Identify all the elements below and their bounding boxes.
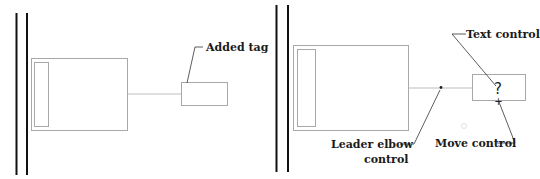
cursor-ghost-icon: [462, 124, 467, 129]
leader-elbow-label: Leader elbow: [331, 138, 413, 151]
leader-elbow-label-line2: control: [364, 153, 408, 166]
cabinet-outline: [32, 59, 128, 131]
move-control-label: Move control: [435, 137, 516, 150]
text-control-callout-line: [452, 34, 496, 86]
text-control-label: Text control: [466, 28, 540, 41]
cabinet-outline: [294, 46, 409, 131]
right-panel: ? + Text control Leader elbow control Mo…: [277, 5, 540, 172]
cabinet-inner-panel: [35, 63, 49, 127]
leader-elbow-callout-line: [400, 90, 440, 144]
cabinet-inner-panel: [298, 50, 316, 127]
move-control-icon[interactable]: +: [494, 96, 502, 107]
left-panel: Added tag: [17, 13, 269, 175]
tag-diagram: Added tag ? + Text control Leader elbow …: [0, 0, 540, 179]
added-tag-callout-line: [187, 47, 203, 83]
added-tag-box[interactable]: [182, 83, 228, 106]
leader-elbow-control[interactable]: [440, 86, 443, 89]
added-tag-label: Added tag: [205, 41, 269, 54]
